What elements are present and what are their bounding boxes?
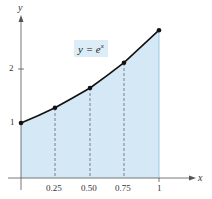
x-tick-label-1: 1 (157, 184, 162, 193)
x-axis-arrow-icon (189, 176, 196, 181)
point-0 (19, 121, 24, 126)
point-025 (53, 105, 58, 110)
x-tick-label-050: 0.50 (81, 184, 97, 193)
point-075 (122, 60, 127, 65)
function-label-exp: x (101, 42, 104, 50)
y-axis-label: y (18, 3, 22, 13)
x-tick-label-075: 0.75 (115, 184, 131, 193)
x-axis-label: x (198, 173, 202, 183)
function-label: y = ex (74, 40, 108, 57)
point-1 (157, 28, 162, 33)
x-tick-label-025: 0.25 (46, 184, 62, 193)
y-axis-arrow-icon (19, 15, 24, 22)
chart-area (0, 0, 212, 199)
point-050 (88, 86, 93, 91)
y-tick-label-2: 2 (9, 64, 14, 73)
y-tick-label-1: 1 (10, 118, 15, 127)
function-label-lhs: y = (78, 43, 96, 55)
